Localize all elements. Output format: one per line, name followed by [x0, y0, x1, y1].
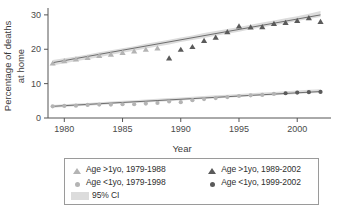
data-point: [237, 94, 241, 98]
y-tick-label: 20: [31, 44, 41, 54]
y-axis-title-line1: Percentage of deaths: [2, 21, 13, 112]
legend-item-age-gt1-1979-1988[interactable]: Age >1yo, 1979-1988: [71, 162, 206, 175]
y-axis-title-line2: at home: [15, 49, 26, 83]
confidence-band-age-lt1: [53, 89, 321, 108]
x-tick-label: 1985: [113, 124, 133, 134]
legend-label: Age >1yo, 1979-1988: [86, 164, 166, 174]
legend-item-confidence-interval[interactable]: 95% CI: [71, 188, 119, 201]
data-point: [51, 104, 55, 108]
data-point: [236, 23, 242, 28]
data-point: [155, 101, 159, 105]
legend-item-age-gt1-1989-2002[interactable]: Age >1yo, 1989-2002: [206, 162, 314, 175]
y-tick-label: 0: [36, 113, 41, 123]
data-point: [307, 90, 311, 94]
legend-label: Age >1yo, 1989-2002: [221, 164, 301, 174]
legend-label: Age <1yo, 1999-2002: [221, 177, 301, 187]
y-axis-ticks: [44, 15, 48, 118]
legend-label: Age <1yo, 1979-1998: [86, 177, 166, 187]
data-point: [214, 96, 218, 100]
y-tick-label: 30: [31, 10, 41, 20]
legend-row-3: 95% CI: [71, 188, 314, 201]
data-point: [178, 47, 184, 52]
ci-band-swatch-icon: [71, 186, 89, 204]
data-point: [283, 91, 287, 95]
data-point: [144, 101, 148, 105]
x-tick-label: 1980: [54, 124, 74, 134]
data-point: [189, 44, 195, 49]
fit-line-age-gt1: [53, 15, 321, 63]
x-axis-tick-labels: 19801985199019952000: [54, 124, 307, 134]
fit-line-age-lt1: [53, 92, 321, 107]
data-point: [190, 98, 194, 102]
data-point: [109, 102, 113, 106]
data-point: [62, 104, 66, 108]
data-point: [201, 38, 207, 43]
confidence-band-group: [53, 11, 321, 108]
data-point: [86, 103, 90, 107]
data-point: [272, 92, 276, 96]
data-point: [132, 102, 136, 106]
data-point: [166, 55, 172, 60]
x-tick-label: 2000: [287, 124, 307, 134]
data-point: [74, 104, 78, 108]
x-axis-ticks: [64, 118, 297, 122]
legend-item-age-lt1-1979-1998[interactable]: Age <1yo, 1979-1998: [71, 175, 206, 188]
x-tick-label: 1990: [171, 124, 191, 134]
data-point: [120, 102, 124, 106]
x-tick-label: 1995: [229, 124, 249, 134]
data-point: [179, 100, 183, 104]
legend-label: 95% CI: [92, 190, 119, 200]
legend-row-2: Age <1yo, 1979-1998 Age <1yo, 1999-2002: [71, 175, 314, 188]
y-tick-label: 10: [31, 79, 41, 89]
chart-figure: 0102030 19801985199019952000 Year Percen…: [0, 0, 337, 214]
circle-dark-icon: [206, 173, 218, 191]
data-point: [317, 19, 323, 24]
y-axis-tick-labels: 0102030: [31, 10, 41, 123]
chart-legend: Age >1yo, 1979-1988 Age >1yo, 1989-2002 …: [64, 158, 319, 205]
data-point: [202, 97, 206, 101]
legend-item-age-lt1-1999-2002[interactable]: Age <1yo, 1999-2002: [206, 175, 314, 188]
data-point: [225, 95, 229, 99]
x-axis-title: Year: [172, 143, 191, 154]
data-point: [318, 90, 322, 94]
data-point: [295, 90, 299, 94]
data-point: [167, 99, 171, 103]
legend-row-1: Age >1yo, 1979-1988 Age >1yo, 1989-2002: [71, 162, 314, 175]
data-point: [260, 93, 264, 97]
data-point: [249, 93, 253, 97]
confidence-band-age-gt1: [53, 11, 321, 65]
data-point: [97, 102, 101, 106]
